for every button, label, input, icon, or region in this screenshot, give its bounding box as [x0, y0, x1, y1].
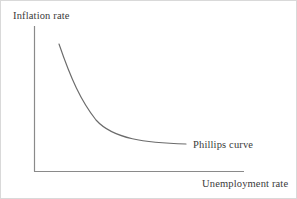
- phillips-curve-figure: Inflation rate Unemployment rate Phillip…: [0, 0, 297, 199]
- plot-area: [1, 1, 297, 199]
- y-axis-label: Inflation rate: [13, 10, 70, 22]
- phillips-curve-label: Phillips curve: [193, 139, 253, 151]
- x-axis-label: Unemployment rate: [202, 178, 288, 190]
- phillips-curve-path: [59, 44, 186, 144]
